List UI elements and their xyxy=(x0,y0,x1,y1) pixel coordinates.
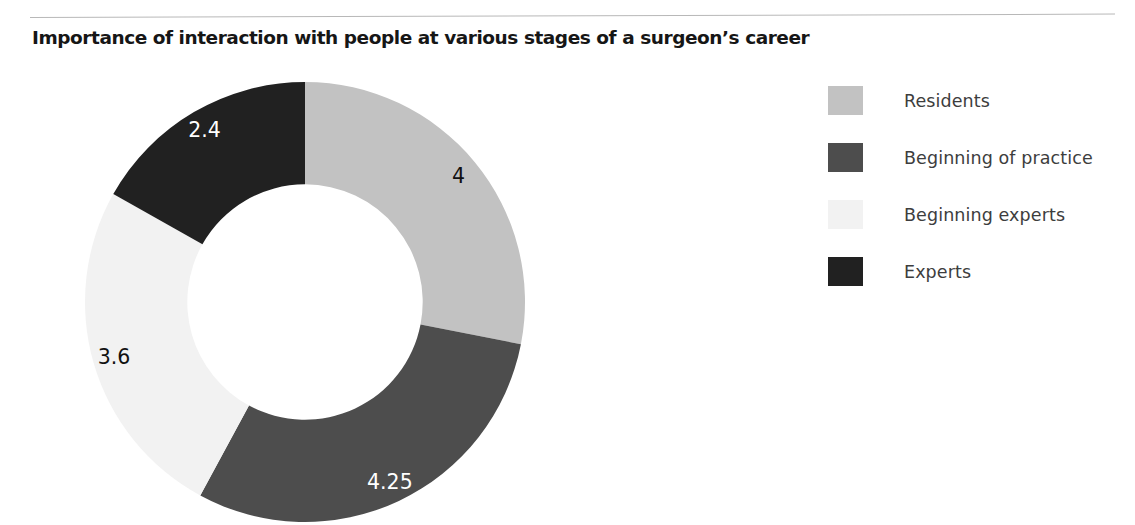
donut-slice[interactable] xyxy=(305,82,525,344)
legend-item-beginning-experts[interactable]: Beginning experts xyxy=(828,186,1128,243)
donut-chart: 44.253.62.4 xyxy=(0,0,640,525)
legend-label-beginning-experts: Beginning experts xyxy=(904,205,1065,225)
legend-swatch-beginning-of-practice xyxy=(828,143,863,172)
donut-slice-value-label: 2.4 xyxy=(188,118,221,142)
donut-slice-value-label: 4.25 xyxy=(367,470,413,494)
legend-label-beginning-of-practice: Beginning of practice xyxy=(904,148,1093,168)
chart-page: Importance of interaction with people at… xyxy=(0,0,1135,525)
donut-slice[interactable] xyxy=(200,325,521,522)
legend-label-experts: Experts xyxy=(904,262,971,282)
legend-swatch-beginning-experts xyxy=(828,200,863,229)
legend-swatch-residents xyxy=(828,86,863,115)
legend-item-beginning-of-practice[interactable]: Beginning of practice xyxy=(828,129,1128,186)
legend-item-residents[interactable]: Residents xyxy=(828,72,1128,129)
donut-slices xyxy=(85,82,525,522)
legend: Residents Beginning of practice Beginnin… xyxy=(828,72,1128,300)
legend-swatch-experts xyxy=(828,257,863,286)
donut-chart-svg: 44.253.62.4 xyxy=(0,0,640,525)
legend-label-residents: Residents xyxy=(904,91,990,111)
donut-slice-value-label: 4 xyxy=(452,164,465,188)
legend-item-experts[interactable]: Experts xyxy=(828,243,1128,300)
donut-slice-value-label: 3.6 xyxy=(98,345,131,369)
